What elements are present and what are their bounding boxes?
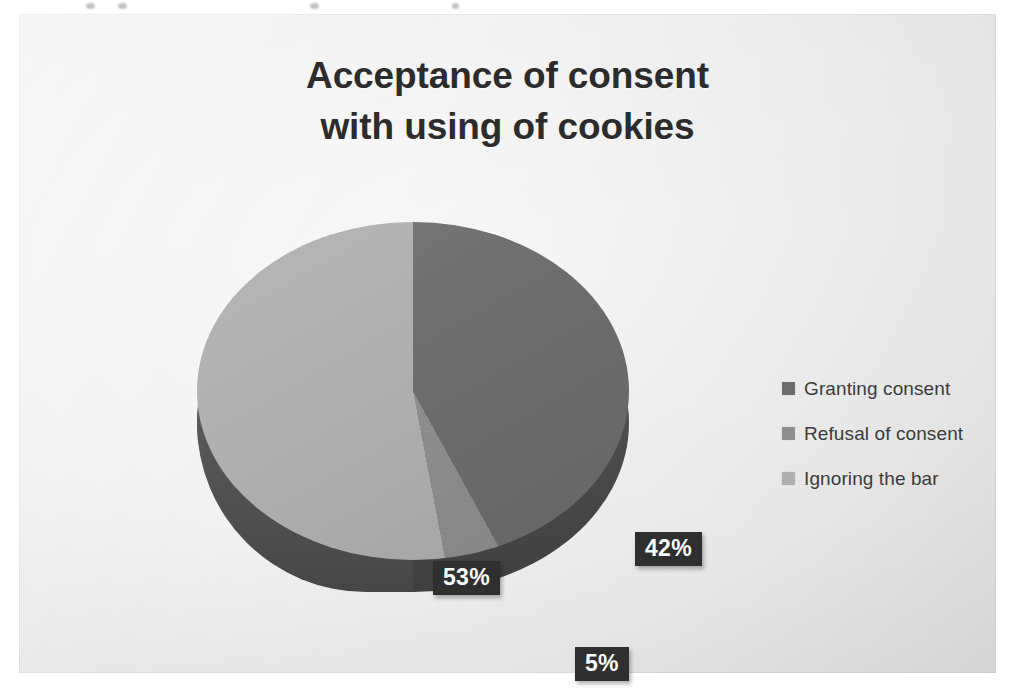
cropped-caption-artifact: [0, 0, 1024, 13]
chart-title-line-1: Acceptance of consent: [19, 50, 996, 101]
pie-slice-refusal-of-consent[interactable]: [197, 222, 629, 560]
legend-item-refusal-of-consent[interactable]: Refusal of consent: [782, 411, 997, 456]
pie-chart: 53% 42% 5%: [179, 192, 649, 622]
legend-item-ignoring-the-bar[interactable]: Ignoring the bar: [782, 456, 997, 501]
legend-item-granting-consent[interactable]: Granting consent: [782, 366, 997, 411]
legend-swatch-refusal-of-consent: [782, 427, 795, 440]
chart-figure: Acceptance of consent with using of cook…: [19, 14, 996, 673]
pie-top-face: [197, 222, 629, 560]
scanned-page: Acceptance of consent with using of cook…: [0, 0, 1024, 691]
data-label-ignoring-the-bar: 5%: [575, 647, 629, 681]
chart-title: Acceptance of consent with using of cook…: [19, 50, 996, 152]
legend-swatch-ignoring-the-bar: [782, 472, 795, 485]
legend-label-ignoring-the-bar: Ignoring the bar: [804, 468, 939, 490]
data-label-granting-consent: 42%: [635, 532, 702, 566]
chart-legend: Granting consent Refusal of consent Igno…: [782, 366, 997, 501]
legend-label-refusal-of-consent: Refusal of consent: [804, 423, 963, 445]
data-label-refusal-of-consent: 53%: [433, 561, 500, 595]
chart-title-line-2: with using of cookies: [19, 101, 996, 152]
legend-label-granting-consent: Granting consent: [804, 378, 950, 400]
legend-swatch-granting-consent: [782, 382, 795, 395]
